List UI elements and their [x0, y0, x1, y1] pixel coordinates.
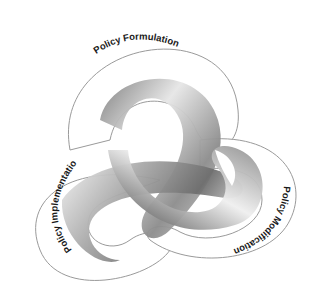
trefoil-knot-diagram: Policy Formulation Policy Implementation… — [0, 0, 322, 301]
